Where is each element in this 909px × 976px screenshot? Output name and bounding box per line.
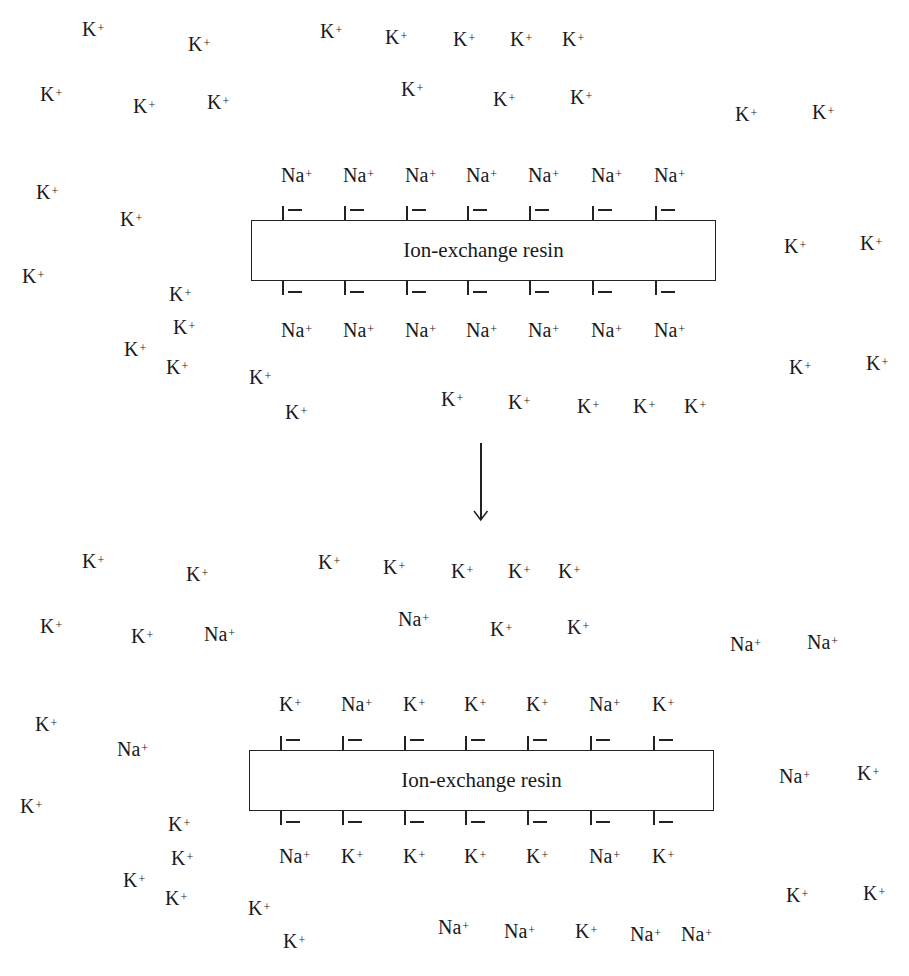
- free-ion-na: Na+: [204, 623, 235, 645]
- negative-charge-icon: [533, 821, 547, 823]
- bound-ion-bottom: K+: [464, 845, 486, 867]
- free-ion-k: K+: [863, 882, 885, 904]
- charge-plus: +: [490, 167, 497, 181]
- ion-symbol: K: [508, 391, 522, 413]
- charge-plus: +: [705, 926, 712, 940]
- ion-symbol: K: [40, 615, 54, 637]
- ion-symbol: K: [40, 83, 54, 105]
- charge-plus: +: [429, 167, 436, 181]
- charge-plus: +: [264, 369, 271, 383]
- negative-charge-icon: [288, 291, 302, 293]
- free-ion-k: K+: [285, 401, 307, 423]
- free-ion-k: K+: [20, 795, 42, 817]
- charge-plus: +: [135, 211, 142, 225]
- ion-symbol: K: [82, 18, 96, 40]
- negative-charge-icon: [412, 291, 426, 293]
- negative-charge-icon: [410, 739, 424, 741]
- negative-charge-icon: [471, 739, 485, 741]
- charge-plus: +: [528, 923, 535, 937]
- free-ion-k: K+: [173, 316, 195, 338]
- bound-ion-bottom: Na+: [654, 319, 685, 341]
- negative-charge-icon: [598, 209, 612, 211]
- anion-site-bottom: [342, 811, 344, 825]
- ion-symbol: K: [186, 563, 200, 585]
- charge-plus: +: [146, 628, 153, 642]
- anion-site-bottom: [465, 811, 467, 825]
- ion-symbol: Na: [343, 164, 366, 186]
- ion-symbol: K: [341, 845, 355, 867]
- charge-plus: +: [184, 286, 191, 300]
- bound-ion-top: K+: [526, 693, 548, 715]
- ion-symbol: K: [633, 395, 647, 417]
- ion-symbol: K: [812, 101, 826, 123]
- charge-plus: +: [263, 900, 270, 914]
- ion-symbol: K: [171, 847, 185, 869]
- charge-plus: +: [878, 885, 885, 899]
- anion-site-top: [653, 736, 655, 750]
- charge-plus: +: [654, 926, 661, 940]
- free-ion-k: K+: [401, 78, 423, 100]
- anion-site-bottom: [527, 811, 529, 825]
- bound-ion-top: Na+: [589, 693, 620, 715]
- charge-plus: +: [592, 398, 599, 412]
- anion-site-top: [342, 736, 344, 750]
- anion-site-top: [592, 206, 594, 220]
- ion-symbol: Na: [466, 319, 489, 341]
- charge-plus: +: [613, 848, 620, 862]
- bound-ion-top: Na+: [281, 164, 312, 186]
- bound-ion-bottom: Na+: [466, 319, 497, 341]
- ion-symbol: K: [558, 560, 572, 582]
- charge-plus: +: [541, 848, 548, 862]
- charge-plus: +: [201, 566, 208, 580]
- charge-plus: +: [181, 359, 188, 373]
- negative-charge-icon: [659, 821, 673, 823]
- free-ion-k: K+: [812, 101, 834, 123]
- free-ion-k: K+: [562, 28, 584, 50]
- charge-plus: +: [615, 322, 622, 336]
- negative-charge-icon: [473, 209, 487, 211]
- ion-symbol: K: [451, 560, 465, 582]
- charge-plus: +: [298, 933, 305, 947]
- charge-plus: +: [97, 21, 104, 35]
- charge-plus: +: [678, 167, 685, 181]
- free-ion-na: Na+: [504, 920, 535, 942]
- ion-symbol: K: [249, 366, 263, 388]
- ion-symbol: Na: [398, 608, 421, 630]
- anion-site-top: [344, 206, 346, 220]
- negative-charge-icon: [286, 821, 300, 823]
- negative-charge-icon: [596, 739, 610, 741]
- charge-plus: +: [490, 322, 497, 336]
- free-ion-k: K+: [188, 33, 210, 55]
- charge-plus: +: [667, 848, 674, 862]
- bound-ion-top: K+: [652, 693, 674, 715]
- free-ion-k: K+: [120, 208, 142, 230]
- charge-plus: +: [582, 619, 589, 633]
- ion-symbol: Na: [807, 631, 830, 653]
- negative-charge-icon: [350, 291, 364, 293]
- charge-plus: +: [228, 626, 235, 640]
- free-ion-k: K+: [40, 83, 62, 105]
- bound-ion-bottom: K+: [403, 845, 425, 867]
- bound-ion-top: Na+: [343, 164, 374, 186]
- charge-plus: +: [479, 696, 486, 710]
- anion-site-bottom: [406, 281, 408, 295]
- charge-plus: +: [183, 816, 190, 830]
- anion-site-bottom: [280, 811, 282, 825]
- charge-plus: +: [367, 167, 374, 181]
- ion-symbol: K: [735, 103, 749, 125]
- free-ion-k: K+: [633, 395, 655, 417]
- ion-symbol: K: [165, 887, 179, 909]
- anion-site-bottom: [282, 281, 284, 295]
- charge-plus: +: [300, 404, 307, 418]
- charge-plus: +: [525, 31, 532, 45]
- negative-charge-icon: [471, 821, 485, 823]
- negative-charge-icon: [535, 209, 549, 211]
- free-ion-k: K+: [383, 556, 405, 578]
- charge-plus: +: [97, 553, 104, 567]
- ion-symbol: K: [403, 693, 417, 715]
- ion-symbol: K: [652, 693, 666, 715]
- charge-plus: +: [186, 850, 193, 864]
- negative-charge-icon: [288, 209, 302, 211]
- charge-plus: +: [508, 91, 515, 105]
- free-ion-na: Na+: [779, 765, 810, 787]
